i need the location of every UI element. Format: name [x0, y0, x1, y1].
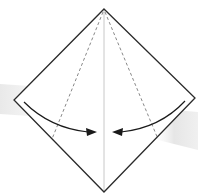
origami-diagram: [0, 0, 198, 196]
